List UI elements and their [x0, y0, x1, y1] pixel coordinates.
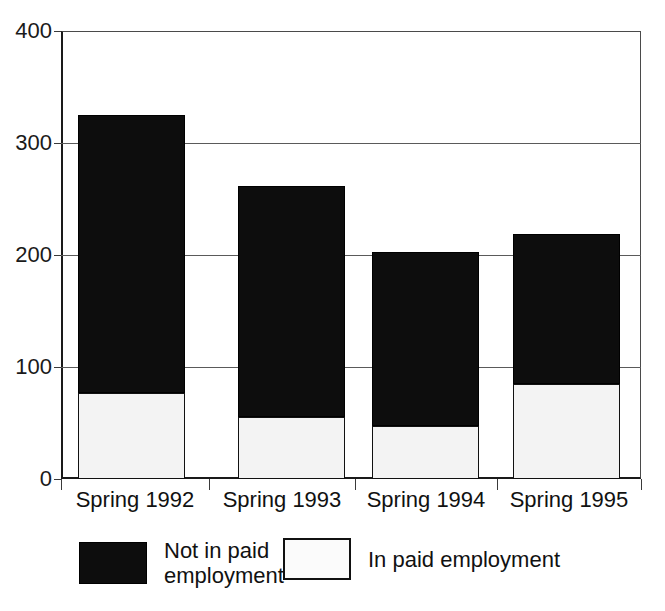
x-axis-label-spring-1993: Spring 1993: [209, 487, 355, 513]
legend-label-not-in-paid-employment: Not in paid employment: [164, 538, 284, 588]
y-tick-mark-300: [54, 143, 61, 144]
bar-segment-not-in-paid-employment-1995[interactable]: [513, 234, 620, 384]
y-axis-label-400: 400: [0, 20, 52, 42]
y-axis-label-0: 0: [0, 468, 52, 490]
bar-spring-1992[interactable]: [78, 115, 185, 479]
bar-spring-1995[interactable]: [513, 234, 620, 479]
y-axis-label-200: 200: [0, 244, 52, 266]
x-axis-label-spring-1995: Spring 1995: [497, 487, 641, 513]
y-tick-mark-100: [54, 367, 61, 368]
legend-swatch-icon-in-paid-employment: [283, 538, 351, 580]
y-tick-mark-400: [54, 31, 61, 32]
bar-segment-in-paid-employment-1994[interactable]: [372, 426, 479, 479]
y-tick-mark-200: [54, 255, 61, 256]
y-axis-label-100: 100: [0, 356, 52, 378]
bar-spring-1993[interactable]: [238, 186, 345, 479]
x-axis-label-spring-1992: Spring 1992: [61, 487, 209, 513]
bar-segment-in-paid-employment-1993[interactable]: [238, 417, 345, 479]
bar-segment-in-paid-employment-1992[interactable]: [78, 393, 185, 479]
y-tick-mark-0: [54, 479, 61, 480]
y-axis-label-300: 300: [0, 132, 52, 154]
bar-spring-1994[interactable]: [372, 252, 479, 479]
x-axis-label-spring-1994: Spring 1994: [355, 487, 497, 513]
legend-swatch-icon-not-in-paid-employment: [79, 542, 147, 584]
legend-item-not-in-paid-employment[interactable]: Not in paid employment: [79, 538, 284, 588]
x-tick-mark-4: [641, 479, 642, 490]
bar-segment-not-in-paid-employment-1994[interactable]: [372, 252, 479, 427]
stacked-bar-chart: 400 300 200 100 0: [0, 0, 665, 611]
legend-label-in-paid-employment: In paid employment: [368, 547, 560, 572]
legend-item-in-paid-employment[interactable]: In paid employment: [283, 538, 560, 580]
chart-legend: Not in paid employment In paid employmen…: [0, 528, 665, 611]
bar-segment-in-paid-employment-1995[interactable]: [513, 384, 620, 479]
bar-segment-not-in-paid-employment-1992[interactable]: [78, 115, 185, 393]
bar-segment-not-in-paid-employment-1993[interactable]: [238, 186, 345, 418]
plot-area: 400 300 200 100 0: [0, 0, 665, 500]
